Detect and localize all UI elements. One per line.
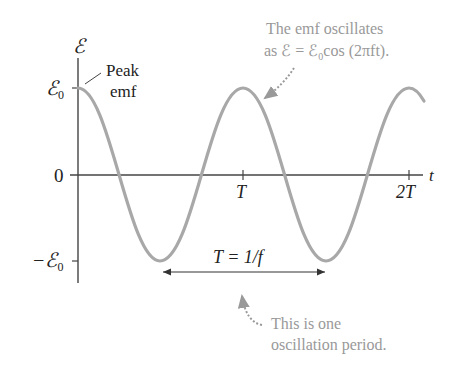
bottom-annotation-line1: This is one <box>271 315 341 332</box>
peak-leader-line <box>85 73 101 84</box>
tick-label-T: T <box>236 182 248 202</box>
peak-tick-label: ℰ0 <box>46 77 64 102</box>
top-annotation-line1: The emf oscillates <box>266 20 383 37</box>
top-annotation-arrow <box>265 68 294 98</box>
y-axis-label: ℰ <box>73 35 87 57</box>
top-annotation-line2: as ℰ = ℰ0cos (2πft). <box>264 42 389 62</box>
emf-oscillation-diagram: ℰ t ℰ0 0 −ℰ0 T 2T Peak emf T = 1/f The e… <box>0 0 461 378</box>
tick-label-2T: 2T <box>396 182 417 202</box>
trough-tick-label: −ℰ0 <box>32 249 64 274</box>
period-label: T = 1/f <box>213 247 266 267</box>
x-axis-label: t <box>429 166 435 185</box>
bottom-annotation-arrow <box>242 296 262 325</box>
zero-tick-label: 0 <box>54 165 64 186</box>
peak-label-line2: emf <box>110 82 137 101</box>
bottom-annotation-line2: oscillation period. <box>271 336 387 354</box>
peak-label-line1: Peak <box>106 61 140 80</box>
